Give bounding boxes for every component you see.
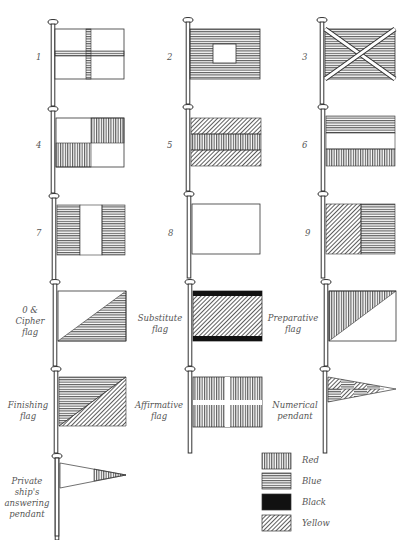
label-finishing-flag: Finishing flag bbox=[4, 400, 52, 422]
label-flag-4: 4 bbox=[36, 140, 41, 151]
flag-1 bbox=[48, 20, 124, 107]
flag-cipher bbox=[50, 280, 126, 367]
label-flag-3: 3 bbox=[302, 52, 307, 63]
flag-9 bbox=[318, 192, 395, 279]
label-substitute-flag: Substitute flag bbox=[135, 313, 185, 335]
legend-swatch-yellow bbox=[262, 515, 291, 531]
flag-3 bbox=[317, 18, 395, 105]
flag-6 bbox=[318, 105, 395, 192]
legend-swatch-black bbox=[262, 494, 291, 510]
legend-label-black: Black bbox=[302, 497, 326, 508]
flag-numerical-pendant bbox=[320, 367, 396, 454]
label-cipher-flag: 0 & Cipher flag bbox=[10, 305, 50, 338]
legend-label-yellow: Yellow bbox=[302, 518, 330, 529]
legend-label-red: Red bbox=[302, 455, 319, 466]
flag-finishing bbox=[51, 367, 126, 454]
flag-preparative bbox=[321, 280, 396, 367]
label-numerical-pendant: Numerical pendant bbox=[270, 400, 320, 422]
label-flag-7: 7 bbox=[36, 228, 41, 239]
label-flag-8: 8 bbox=[168, 228, 173, 239]
label-flag-6: 6 bbox=[302, 140, 307, 151]
flag-5 bbox=[183, 105, 261, 192]
flag-2 bbox=[183, 18, 260, 105]
legend-label-blue: Blue bbox=[302, 476, 321, 487]
legend-swatch-red bbox=[262, 453, 291, 469]
flag-8 bbox=[184, 192, 260, 279]
flag-chart bbox=[0, 0, 407, 540]
flag-7 bbox=[49, 194, 125, 281]
label-preparative-flag: Preparative flag bbox=[264, 313, 322, 335]
legend-swatch-blue bbox=[262, 473, 291, 489]
label-flag-2: 2 bbox=[167, 52, 172, 63]
flag-4 bbox=[48, 107, 124, 194]
flag-affirmative bbox=[185, 367, 262, 454]
label-answering-pendant: Private ship's answering pendant bbox=[4, 476, 50, 520]
flag-substitute bbox=[185, 280, 262, 367]
label-flag-1: 1 bbox=[36, 52, 41, 63]
label-flag-5: 5 bbox=[167, 140, 172, 151]
flag-answering-pendant bbox=[52, 454, 126, 540]
label-affirmative-flag: Affirmative flag bbox=[134, 400, 184, 422]
legend bbox=[262, 453, 291, 531]
label-flag-9: 9 bbox=[305, 228, 310, 239]
